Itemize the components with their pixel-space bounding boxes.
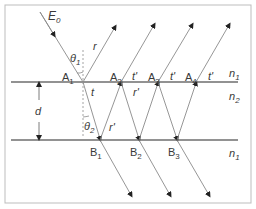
- label-t-prime-2: t': [170, 70, 176, 82]
- thin-film-diagram: E0 θ1 r t A1 A2 A3 A4 t' t' t' r' r' θ2 …: [0, 0, 256, 209]
- label-r-prime-2: r': [109, 121, 116, 133]
- label-d: d: [35, 105, 42, 117]
- label-t-prime-3: t': [208, 70, 214, 82]
- label-t-prime-1: t': [132, 70, 138, 82]
- label-r-prime-1: r': [133, 86, 140, 98]
